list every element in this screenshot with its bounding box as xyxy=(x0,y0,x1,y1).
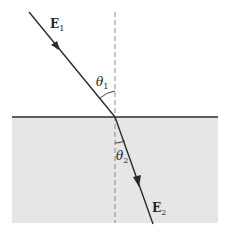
refraction-angle-label: θ2 xyxy=(116,150,128,165)
incident-arrow-icon xyxy=(51,41,60,50)
incident-field-label: E1 xyxy=(50,18,64,33)
theta1-arc xyxy=(100,91,115,98)
incident-ray xyxy=(29,12,115,117)
incidence-angle-label: θ1 xyxy=(96,76,108,91)
refracted-field-label: E2 xyxy=(152,202,166,217)
refraction-diagram xyxy=(0,0,228,234)
